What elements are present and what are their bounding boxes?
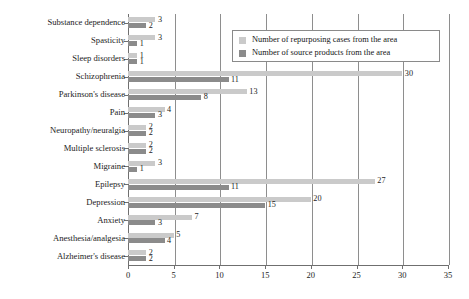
- legend-label: Number of repurposing cases from the are…: [252, 36, 397, 44]
- category-label: Substance dependence: [47, 18, 125, 27]
- bar-source-products: [128, 131, 146, 136]
- x-tick-label: 20: [307, 270, 316, 280]
- bar-value-label: 30: [405, 70, 413, 78]
- category-label: Sleep disorders: [72, 54, 125, 63]
- x-tick-label: 15: [261, 270, 270, 280]
- bar-value-label: 4: [167, 106, 171, 114]
- bar-value-label: 8: [204, 93, 208, 101]
- category-label: Pain: [110, 108, 125, 117]
- category-label: Alzheimer's disease: [57, 252, 125, 261]
- x-tick-35: [448, 265, 449, 269]
- category-label: Anxiety: [97, 216, 125, 225]
- legend-swatch-icon: [239, 50, 246, 57]
- bar-value-label: 15: [268, 201, 276, 209]
- gridline-35: [449, 14, 450, 265]
- category-label: Neuropathy/neuralgia: [50, 126, 125, 135]
- bar-value-label: 1: [140, 40, 144, 48]
- x-tick-25: [357, 265, 358, 269]
- bar-value-label: 2: [149, 255, 153, 263]
- bar-source-products: [128, 113, 155, 118]
- bar-value-label: 2: [149, 129, 153, 137]
- bar-value-label: 3: [158, 159, 162, 167]
- bar-source-products: [128, 41, 137, 46]
- bar-repurposing-cases: [128, 53, 137, 58]
- bar-value-label: 3: [158, 219, 162, 227]
- bar-source-products: [128, 95, 201, 100]
- bar-source-products: [128, 23, 146, 28]
- legend-label: Number of source products from the area: [252, 49, 390, 57]
- bar-source-products: [128, 203, 265, 208]
- x-tick-10: [219, 265, 220, 269]
- x-tick-30: [402, 265, 403, 269]
- x-tick-label: 30: [398, 270, 407, 280]
- bar-source-products: [128, 77, 229, 82]
- gridline-10: [220, 14, 221, 265]
- category-label: Spasticity: [91, 36, 125, 45]
- legend-item[interactable]: Number of repurposing cases from the are…: [239, 34, 433, 47]
- category-label: Anesthesia/analgesia: [53, 234, 125, 243]
- bar-value-label: 5: [176, 231, 180, 239]
- x-tick-20: [311, 265, 312, 269]
- category-label: Multiple sclerosis: [64, 144, 125, 153]
- bar-value-label: 3: [158, 16, 162, 24]
- bar-value-label: 20: [313, 195, 321, 203]
- bar-value-label: 7: [195, 213, 199, 221]
- x-axis-line: [128, 265, 448, 266]
- bar-chart: 05101520253035 Substance dependence32Spa…: [0, 0, 469, 299]
- bar-value-label: 3: [158, 34, 162, 42]
- bar-value-label: 3: [158, 111, 162, 119]
- x-tick-label: 5: [172, 270, 176, 280]
- category-label: Epilepsy: [95, 180, 125, 189]
- legend-item[interactable]: Number of source products from the area: [239, 47, 433, 60]
- x-tick-label: 35: [444, 270, 453, 280]
- bar-value-label: 11: [231, 183, 239, 191]
- bar-value-label: 11: [231, 76, 239, 84]
- bar-source-products: [128, 256, 146, 261]
- gridline-5: [175, 14, 176, 265]
- bar-value-label: 2: [149, 22, 153, 30]
- bar-value-label: 13: [249, 88, 257, 96]
- x-tick-label: 10: [215, 270, 224, 280]
- category-label: Migraine: [93, 162, 125, 171]
- bar-source-products: [128, 220, 155, 225]
- bar-value-label: 4: [167, 237, 171, 245]
- x-tick-15: [265, 265, 266, 269]
- bar-repurposing-cases: [128, 71, 402, 76]
- category-label: Depression: [86, 198, 125, 207]
- bar-value-label: 1: [140, 165, 144, 173]
- bar-value-label: 27: [377, 177, 385, 185]
- bar-repurposing-cases: [128, 179, 375, 184]
- bar-source-products: [128, 238, 165, 243]
- bar-repurposing-cases: [128, 197, 311, 202]
- bar-source-products: [128, 167, 137, 172]
- x-tick-5: [174, 265, 175, 269]
- category-label: Schizophrenia: [76, 72, 125, 81]
- bar-repurposing-cases: [128, 143, 146, 148]
- x-tick-0: [128, 265, 129, 269]
- bar-source-products: [128, 185, 229, 190]
- bar-value-label: 2: [149, 147, 153, 155]
- bar-source-products: [128, 149, 146, 154]
- legend: Number of repurposing cases from the are…: [232, 30, 440, 62]
- bar-repurposing-cases: [128, 125, 146, 130]
- x-tick-label: 0: [126, 270, 130, 280]
- x-tick-label: 25: [352, 270, 361, 280]
- bar-repurposing-cases: [128, 250, 146, 255]
- bar-value-label: 1: [140, 58, 144, 66]
- bar-source-products: [128, 59, 137, 64]
- legend-swatch-icon: [239, 37, 246, 44]
- bar-repurposing-cases: [128, 89, 247, 94]
- category-label: Parkinson's disease: [59, 90, 125, 99]
